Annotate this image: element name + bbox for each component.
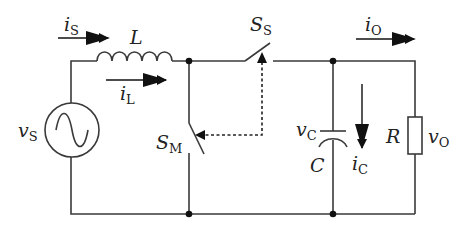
- label-inductor: L: [129, 26, 143, 48]
- label-s-s: SS: [250, 13, 272, 38]
- label-i-s: iS: [64, 13, 79, 38]
- series-switch-icon: [245, 43, 270, 61]
- control-link-dashed: [195, 52, 267, 140]
- circuit-diagram: iS L iL vS SM SS iO vC C iC R vO: [0, 0, 470, 227]
- arrow-heads: [86, 31, 416, 148]
- label-v-c: vC: [296, 118, 317, 143]
- label-i-l: iL: [120, 82, 135, 107]
- label-v-o: vO: [428, 125, 449, 150]
- inductor-icon: [97, 52, 172, 61]
- label-s-m: SM: [156, 131, 182, 156]
- resistor-icon: [408, 117, 422, 154]
- label-resistor: R: [385, 125, 400, 147]
- label-capacitor: C: [310, 154, 325, 176]
- main-switch-icon: [189, 123, 204, 154]
- label-v-s: vS: [18, 119, 38, 144]
- ac-source-icon: [45, 103, 99, 157]
- label-i-o: iO: [365, 13, 382, 38]
- label-i-c: iC: [352, 152, 368, 177]
